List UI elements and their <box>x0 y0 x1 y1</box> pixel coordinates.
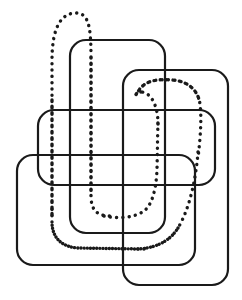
knot-diagram-figure <box>0 0 242 300</box>
figure-background <box>0 0 242 300</box>
